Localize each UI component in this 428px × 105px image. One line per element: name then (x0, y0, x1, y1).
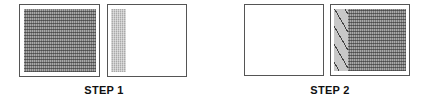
step2-label: STEP 2 (310, 84, 350, 96)
hatched-strip (334, 9, 348, 71)
step2-left-panel (244, 4, 324, 76)
light-dotted-strip (111, 9, 126, 72)
dark-dotted-fill (348, 9, 406, 71)
step1-label: STEP 1 (84, 84, 124, 96)
dark-dotted-fill (24, 9, 96, 72)
step2-right-panel (330, 4, 410, 76)
step1-left-panel (19, 4, 100, 77)
step1-right-panel (107, 4, 187, 77)
